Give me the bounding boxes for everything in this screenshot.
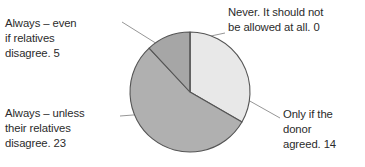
pie-label-always-unless-relatives-disagree: Always – unless their relatives disagree… — [5, 106, 130, 152]
pie-chart-figure: Always – even if relatives disagree. 5 N… — [0, 0, 365, 167]
pie-label-never: Never. It should not be allowed at all. … — [228, 5, 365, 35]
pie-label-always-even-if-relatives-disagree: Always – even if relatives disagree. 5 — [5, 16, 125, 62]
pie-label-only-if-donor-agreed: Only if the donor agreed. 14 — [283, 107, 365, 153]
